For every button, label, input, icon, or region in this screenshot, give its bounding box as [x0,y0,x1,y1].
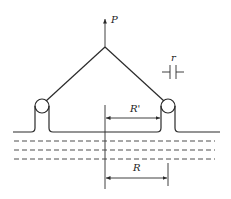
surface-line [13,106,220,132]
r-label: R [132,162,141,173]
apex-frame [46,47,164,101]
gap-symbol [162,65,184,79]
dashed-layers [14,141,215,159]
gap-label: r [171,52,177,63]
left-pulley [35,99,49,113]
force-label: P [110,14,118,25]
right-pulley [161,99,175,113]
diagram-canvas: P r R' R [0,0,231,199]
r-prime-label: R' [129,103,140,114]
